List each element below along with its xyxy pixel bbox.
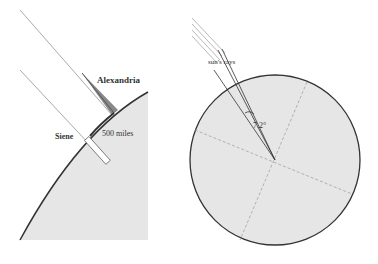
label-angle: 7.2° [253,121,266,130]
ray-alexandria [20,10,112,115]
label-alexandria: Alexandria [97,75,141,85]
earth-section [20,92,148,240]
label-rays: sun's rays [208,58,235,66]
label-siene: Siene [55,132,74,141]
right-diagram: sun's rays 7.2° [190,18,360,245]
sun-rays [192,18,225,63]
eratosthenes-diagram: Alexandria Siene 500 miles sun's rays 7.… [0,0,378,264]
label-distance: 500 miles [102,129,133,138]
left-diagram: Alexandria Siene 500 miles [20,10,148,240]
